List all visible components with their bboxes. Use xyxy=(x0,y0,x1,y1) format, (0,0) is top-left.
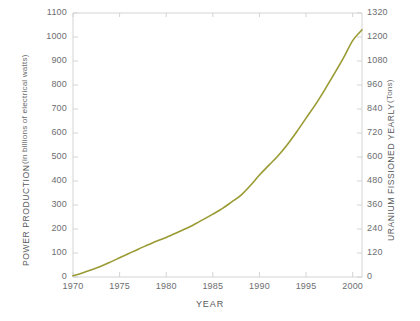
chart-figure: POWER PRODUCTION (in billions of electri… xyxy=(0,0,420,321)
x-axis-title: YEAR xyxy=(0,299,420,309)
clipped-caption-sliver xyxy=(36,316,366,321)
axis-frame xyxy=(73,13,362,277)
axis-tick-marks xyxy=(73,13,362,277)
plot-area xyxy=(0,0,420,321)
power-production-curve xyxy=(73,30,362,276)
